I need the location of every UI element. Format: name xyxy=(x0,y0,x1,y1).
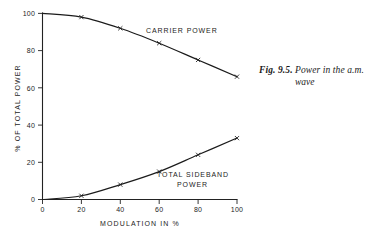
x-axis-title: MODULATION IN % xyxy=(100,220,180,227)
y-tick-label: 80 xyxy=(27,47,35,54)
carrier-power-markers xyxy=(79,15,239,79)
y-tick-label: 60 xyxy=(27,85,35,92)
carrier-power-label: CARRIER POWER xyxy=(146,27,218,34)
x-tick-label: 60 xyxy=(155,206,163,213)
x-tick-label: 80 xyxy=(194,206,202,213)
x-axis-tick-labels: 0 20 40 60 80 100 xyxy=(40,206,243,213)
y-tick-label: 20 xyxy=(27,159,35,166)
x-tick-label: 40 xyxy=(116,206,124,213)
y-tick-label: 100 xyxy=(23,10,35,17)
x-tick-label: 100 xyxy=(231,206,243,213)
figure-caption-line2: wave xyxy=(259,76,377,88)
x-axis-ticks xyxy=(43,200,238,205)
figure-container: 0 20 40 60 80 100 0 20 40 60 80 100 MODU… xyxy=(0,0,381,235)
sideband-power-markers xyxy=(79,136,239,198)
y-tick-label: 0 xyxy=(31,196,35,203)
sideband-power-label-line1: TOTAL SIDEBAND xyxy=(157,171,229,178)
sideband-power-curve xyxy=(43,138,238,199)
chart-plot: 0 20 40 60 80 100 0 20 40 60 80 100 MODU… xyxy=(0,0,250,235)
sideband-power-label-line2: POWER xyxy=(177,181,208,188)
y-tick-label: 40 xyxy=(27,122,35,129)
carrier-power-curve xyxy=(43,13,238,76)
y-axis-title: % OF TOTAL POWER xyxy=(14,64,21,151)
y-axis-ticks xyxy=(38,13,43,199)
x-tick-label: 20 xyxy=(77,206,85,213)
figure-number: Fig. 9.5. xyxy=(259,65,293,75)
x-tick-label: 0 xyxy=(40,206,44,213)
figure-caption-line1: Power in the a.m. xyxy=(295,65,364,75)
figure-caption: Fig. 9.5. Power in the a.m. wave xyxy=(259,64,377,88)
y-axis-tick-labels: 0 20 40 60 80 100 xyxy=(23,10,35,203)
